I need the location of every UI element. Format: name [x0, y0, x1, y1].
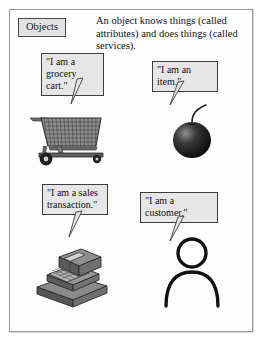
- figure-caption: An object knows things (called attribute…: [96, 15, 244, 53]
- speech-bubble-sales-transaction: "I am a sales transaction.": [42, 184, 108, 215]
- objects-figure: Objects An object knows things (called a…: [0, 0, 263, 348]
- figure-label-objects: Objects: [18, 18, 66, 37]
- cherry-item-icon: [162, 100, 234, 172]
- shopping-cart-icon: [27, 100, 115, 172]
- person-stick-figure-icon: [152, 230, 236, 318]
- speech-bubble-customer: "I am a customer.": [140, 192, 218, 223]
- speech-bubble-item: "I am an item.": [152, 61, 218, 92]
- cash-register-icon: [27, 231, 115, 313]
- speech-bubble-grocery-cart: "I am a grocery cart.": [41, 53, 104, 96]
